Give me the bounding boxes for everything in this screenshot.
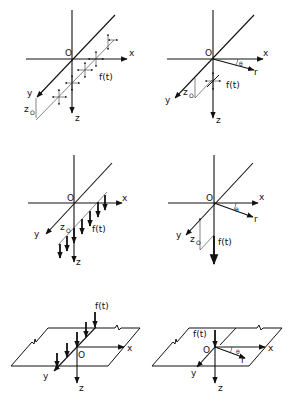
force-label: f(t): [193, 329, 207, 339]
panel-a: O x y z f(t) z O: [24, 10, 135, 123]
r-axis: [213, 59, 254, 70]
theta-label: θ: [236, 348, 240, 355]
z-label: z: [79, 383, 84, 393]
depth-subscript: O: [30, 109, 35, 116]
depth-subscript: O: [66, 227, 71, 234]
r-label: r: [241, 355, 245, 365]
y-axis: [175, 15, 254, 98]
depth-label: z: [183, 87, 188, 97]
force-cross: [108, 34, 118, 50]
half-space-surface: [152, 325, 282, 366]
z-label: z: [218, 383, 223, 393]
depth-label: z: [60, 222, 65, 232]
theta-arc: [236, 59, 238, 65]
x-label: x: [268, 343, 274, 353]
origin-label: O: [206, 193, 213, 203]
r-label: r: [254, 214, 258, 224]
panel-d: O x r θ y f(t) z O: [168, 155, 265, 264]
x-label: x: [127, 343, 133, 353]
theta-label: θ: [239, 60, 243, 67]
x-label: x: [263, 48, 269, 58]
origin-label: O: [203, 345, 210, 355]
force-label: f(t): [218, 237, 232, 247]
depth-label: z: [24, 104, 29, 114]
force-label: f(t): [226, 80, 240, 90]
y-axis: [54, 327, 96, 371]
load-line: [58, 192, 107, 245]
z-label: z: [75, 113, 80, 123]
y-label: y: [34, 229, 40, 239]
origin-label: O: [65, 48, 72, 58]
origin-label: O: [78, 350, 85, 360]
origin-label: O: [67, 193, 74, 203]
r-label: r: [254, 67, 258, 77]
y-axis: [186, 163, 253, 235]
depth-connector: [200, 235, 214, 250]
point-force: [205, 72, 221, 90]
force-label: f(t): [99, 72, 113, 82]
theta-arc: [230, 347, 232, 353]
panel-b: O x r θ y z f(t) z O: [165, 10, 269, 125]
depth-subscript: O: [196, 239, 201, 246]
y-label: y: [43, 371, 49, 381]
depth-label: z: [190, 234, 195, 244]
x-label: x: [122, 193, 128, 203]
origin-label: O: [205, 48, 212, 58]
half-space-surface: [11, 325, 140, 366]
y-label: y: [27, 88, 33, 98]
y-label: y: [191, 368, 197, 378]
diagram-canvas: O x y z f(t) z O O x r θ y z f(t) z O: [0, 0, 294, 395]
force-cross: [52, 89, 67, 105]
y-label: y: [165, 95, 171, 105]
depth-subscript: O: [189, 92, 194, 99]
depth-connector: [195, 80, 212, 98]
y-label: y: [176, 230, 182, 240]
line-load-arrows: [57, 312, 95, 367]
theta-label: θ: [235, 206, 239, 213]
panel-e: f(t) O x y z: [11, 301, 140, 393]
y-axis: [37, 15, 115, 97]
panel-f: f(t) O x r θ y z: [152, 325, 282, 393]
z-label: z: [76, 257, 81, 267]
x-label: x: [259, 192, 265, 202]
force-label: f(t): [95, 301, 109, 311]
force-label: f(t): [92, 224, 106, 234]
x-label: x: [129, 48, 135, 58]
panel-c: O x y z f(t) z O: [28, 155, 128, 267]
r-axis: [214, 203, 253, 217]
z-label: z: [216, 115, 221, 125]
surface-line: [220, 328, 236, 345]
